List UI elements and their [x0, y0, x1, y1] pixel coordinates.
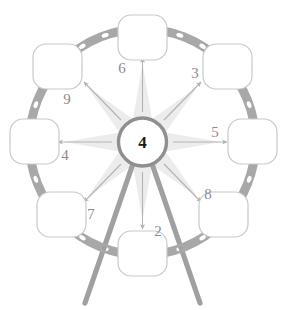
center-label: 4 [138, 133, 147, 152]
radial-wheel-diagram: 4 6 3 5 8 2 7 4 9 [0, 0, 285, 310]
node-left[interactable] [10, 119, 59, 164]
node-top-right[interactable] [203, 44, 252, 89]
spoke-label-6: 6 [118, 60, 126, 76]
node-bottom-left[interactable] [37, 192, 86, 237]
spoke-label-7: 7 [87, 206, 95, 222]
spoke-9-arrow [84, 82, 121, 120]
spoke-8-arrow [164, 164, 201, 202]
spoke-label-5: 5 [211, 124, 219, 140]
spoke-label-4: 4 [61, 147, 69, 163]
spoke-label-3: 3 [191, 65, 199, 81]
spoke-7-arrow [84, 164, 121, 202]
spoke-label-8: 8 [204, 186, 212, 202]
node-top-left[interactable] [33, 44, 82, 89]
spoke-3-arrow [164, 82, 201, 120]
node-right[interactable] [228, 119, 277, 164]
spoke-label-9: 9 [63, 91, 71, 107]
node-top[interactable] [118, 15, 167, 60]
wheel-svg: 4 6 3 5 8 2 7 4 9 [0, 0, 285, 310]
spoke-label-2: 2 [154, 223, 162, 239]
center-hub[interactable]: 4 [119, 118, 167, 166]
